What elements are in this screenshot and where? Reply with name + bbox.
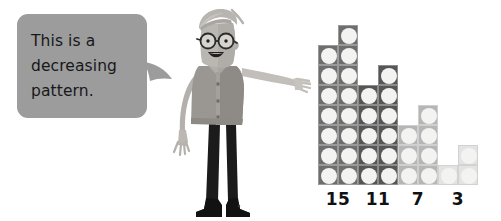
dot: [361, 108, 377, 124]
dot: [461, 168, 477, 184]
dot-cell: [338, 65, 358, 85]
dot-cell: [458, 165, 478, 185]
right-arm-pointing: [242, 68, 311, 92]
dot-cell: [338, 85, 358, 105]
dot-cell: [378, 85, 398, 105]
dot-cell: [378, 145, 398, 165]
dot: [341, 48, 357, 64]
group-number-labels: 151173: [318, 189, 490, 215]
illustration-canvas: This is a decreasing pattern.: [0, 0, 501, 221]
dot: [341, 28, 357, 44]
speech-bubble-text: This is a decreasing pattern.: [31, 29, 139, 104]
dot: [421, 168, 437, 184]
dot: [381, 168, 397, 184]
dot: [401, 148, 417, 164]
dot-cell: [418, 145, 438, 165]
dot-cell: [418, 125, 438, 145]
dot: [401, 128, 417, 144]
dot-cell: [318, 105, 338, 125]
dot: [321, 88, 337, 104]
dot: [341, 88, 357, 104]
group-label-3: 3: [438, 189, 478, 209]
dot: [421, 148, 437, 164]
dot-cell: [378, 105, 398, 125]
dot-cell: [378, 65, 398, 85]
shirt: [191, 60, 244, 125]
dot-cell: [318, 145, 338, 165]
group-label-15: 15: [318, 189, 358, 209]
dot-group-7: [398, 105, 438, 185]
dot-cell: [398, 165, 418, 185]
dot-cell: [338, 165, 358, 185]
dot-array-groups: [318, 13, 490, 185]
dot-cell: [398, 145, 418, 165]
dot-cell: [398, 125, 418, 145]
dot: [381, 128, 397, 144]
dot-cell: [358, 105, 378, 125]
dot-cell: [318, 165, 338, 185]
dot: [461, 148, 477, 164]
dot-cell: [318, 85, 338, 105]
dot-cell: [338, 45, 358, 65]
dot-cell: [338, 105, 358, 125]
dot-cell: [438, 165, 458, 185]
dot: [441, 168, 457, 184]
dot: [341, 148, 357, 164]
dot: [321, 168, 337, 184]
legs: [196, 124, 250, 217]
dot: [421, 108, 437, 124]
dot-cell: [338, 125, 358, 145]
dot: [361, 168, 377, 184]
dot-cell: [338, 25, 358, 45]
dot-cell: [358, 165, 378, 185]
speech-bubble: This is a decreasing pattern.: [17, 14, 147, 118]
dot: [321, 68, 337, 84]
dot: [341, 128, 357, 144]
cartoon-man-figure: [166, 6, 311, 221]
dot: [361, 88, 377, 104]
dot: [361, 128, 377, 144]
dot-cell: [318, 45, 338, 65]
dot-group-15: [318, 25, 358, 185]
dot-cell: [418, 165, 438, 185]
dot: [341, 108, 357, 124]
dot-cell: [458, 145, 478, 165]
dot-cell: [358, 85, 378, 105]
dot: [341, 168, 357, 184]
dot-group-3: [438, 145, 478, 185]
dot: [341, 68, 357, 84]
dot-cell: [418, 105, 438, 125]
dot: [401, 168, 417, 184]
dot-cell: [318, 65, 338, 85]
dot-cell: [378, 125, 398, 145]
dot: [381, 88, 397, 104]
dot: [381, 108, 397, 124]
group-label-11: 11: [358, 189, 398, 209]
dot: [421, 128, 437, 144]
dot: [321, 148, 337, 164]
dot-cell: [358, 125, 378, 145]
dot-cell: [318, 125, 338, 145]
dot-group-11: [358, 65, 398, 185]
dot: [381, 148, 397, 164]
dot-cell: [378, 165, 398, 185]
dot: [321, 48, 337, 64]
dot: [321, 108, 337, 124]
dot: [361, 148, 377, 164]
dot-cell: [358, 145, 378, 165]
dot: [381, 68, 397, 84]
dot: [321, 128, 337, 144]
dot-cell: [338, 145, 358, 165]
group-label-7: 7: [398, 189, 438, 209]
